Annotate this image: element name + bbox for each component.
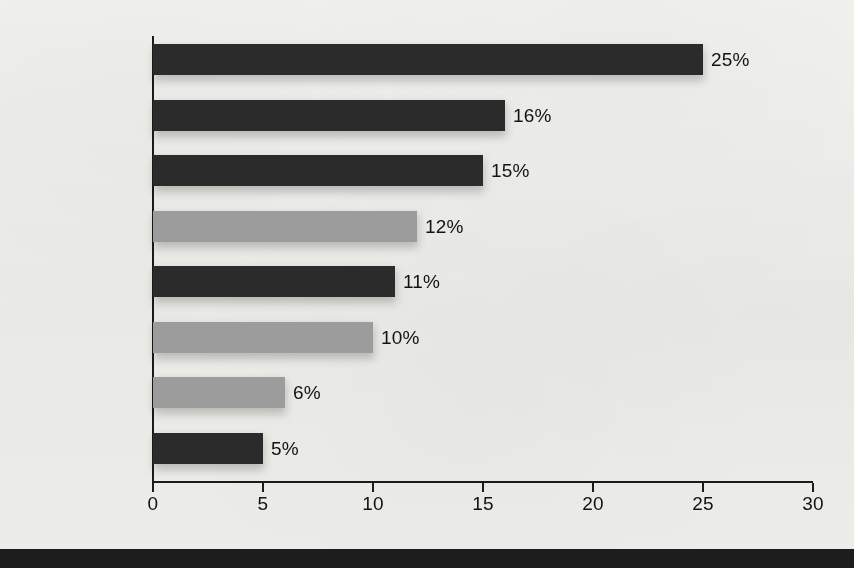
- x-tick-label: 5: [233, 493, 293, 515]
- chart-page: 051015202530 Deny25%Discount16%Rationali…: [0, 0, 854, 568]
- bar-value-label: 6%: [293, 377, 321, 408]
- bar-value-label: 5%: [271, 433, 299, 464]
- x-tick-label: 10: [343, 493, 403, 515]
- x-tick-mark: [812, 483, 814, 492]
- x-tick-label: 0: [123, 493, 183, 515]
- x-tick-mark: [702, 483, 704, 492]
- x-tick-mark: [152, 483, 154, 492]
- bar: [153, 433, 263, 464]
- x-tick-label: 15: [453, 493, 513, 515]
- bar: [153, 377, 285, 408]
- x-tick-mark: [592, 483, 594, 492]
- bar: [153, 155, 483, 186]
- bar: [153, 211, 417, 242]
- x-tick-mark: [262, 483, 264, 492]
- x-tick-label: 20: [563, 493, 623, 515]
- bar-value-label: 11%: [403, 266, 440, 297]
- x-tick-mark: [372, 483, 374, 492]
- bar-value-label: 15%: [491, 155, 530, 186]
- bar-value-label: 25%: [711, 44, 750, 75]
- bottom-black-band: [0, 549, 854, 568]
- bar: [153, 100, 505, 131]
- bar: [153, 44, 703, 75]
- x-tick-label: 25: [673, 493, 733, 515]
- bar-chart-plot-area: 051015202530 Deny25%Discount16%Rationali…: [0, 0, 854, 568]
- bar: [153, 322, 373, 353]
- bar-value-label: 12%: [425, 211, 464, 242]
- bar-value-label: 16%: [513, 100, 552, 131]
- x-tick-mark: [482, 483, 484, 492]
- bar-value-label: 10%: [381, 322, 420, 353]
- bar: [153, 266, 395, 297]
- x-tick-label: 30: [783, 493, 843, 515]
